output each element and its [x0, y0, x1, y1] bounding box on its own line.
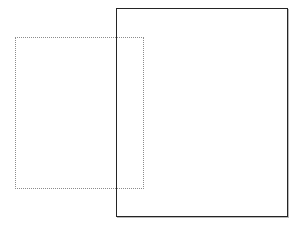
drawing-canvas[interactable] [0, 0, 306, 229]
solid-page-rectangle[interactable] [116, 8, 288, 217]
